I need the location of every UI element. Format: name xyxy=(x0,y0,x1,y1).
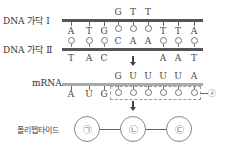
stem xyxy=(104,44,105,47)
mrna-base-above: U xyxy=(142,71,154,81)
strand1-base-below: T xyxy=(157,26,169,36)
strand1-base-below: T xyxy=(172,26,184,36)
strand2-label: DNA 가닥 Ⅱ xyxy=(3,43,52,56)
strand2-base-above: A xyxy=(142,36,154,46)
unknown-base-circle xyxy=(175,89,182,96)
strand1-base-above: T xyxy=(127,7,139,17)
stem xyxy=(71,44,72,47)
strand2-base-below: A xyxy=(172,53,184,63)
mrna-label: mRNA xyxy=(32,78,62,88)
strand1-base-above: T xyxy=(142,7,154,17)
unknown-base-circle xyxy=(115,25,122,32)
strand1-base-below: A xyxy=(188,26,200,36)
marker-line xyxy=(201,93,208,94)
mrna-base-below: G xyxy=(98,89,110,99)
strand1-label: DNA 가닥 Ⅰ xyxy=(3,14,50,27)
arrow-down-icon xyxy=(130,62,136,66)
mrna-base-below: U xyxy=(83,89,95,99)
mrna-base-above: U xyxy=(127,71,139,81)
strand2-base-above: C xyxy=(112,36,124,46)
strand2-base-below: A xyxy=(83,53,95,63)
mrna-base-above: U xyxy=(157,71,169,81)
stem xyxy=(89,44,90,47)
marker-a: ⓐ xyxy=(208,87,216,98)
strand2-base-below: A xyxy=(157,53,169,63)
polypeptide-label: 폴리펩타이드 xyxy=(17,124,59,135)
mrna-base-above: A xyxy=(188,71,200,81)
strand1-base-above: G xyxy=(112,7,124,17)
unknown-base-circle xyxy=(191,89,198,96)
unknown-base-circle xyxy=(145,89,152,96)
strand1-base-below: T xyxy=(83,26,95,36)
strand2-base-below: T xyxy=(65,53,77,63)
peptide-bond xyxy=(99,129,120,130)
strand1-base-below: A xyxy=(65,26,77,36)
amino-acid-3: ㉢ xyxy=(166,116,192,142)
unknown-base-circle xyxy=(160,89,167,96)
stem xyxy=(163,44,164,47)
mrna-base-above: U xyxy=(172,71,184,81)
stem xyxy=(178,44,179,47)
unknown-base-circle xyxy=(115,89,122,96)
dna-strand-2 xyxy=(62,48,203,51)
strand2-base-below: T xyxy=(188,53,200,63)
peptide-bond xyxy=(145,129,166,130)
region-a-box xyxy=(110,86,201,100)
unknown-base-circle xyxy=(160,37,167,44)
unknown-base-circle xyxy=(68,37,75,44)
arrow-down-icon xyxy=(130,107,136,111)
unknown-base-circle xyxy=(130,25,137,32)
strand2-base-above: A xyxy=(127,36,139,46)
mrna-base-above: G xyxy=(112,71,124,81)
amino-acid-2: ㉡ xyxy=(120,116,146,142)
unknown-base-circle xyxy=(86,37,93,44)
strand2-base-below: C xyxy=(98,53,110,63)
unknown-base-circle xyxy=(191,37,198,44)
unknown-base-circle xyxy=(130,89,137,96)
unknown-base-circle xyxy=(145,25,152,32)
mrna-base-below: A xyxy=(65,89,77,99)
unknown-base-circle xyxy=(101,37,108,44)
strand1-base-below: G xyxy=(98,26,110,36)
stem xyxy=(194,44,195,47)
amino-acid-1: ㉠ xyxy=(74,116,100,142)
unknown-base-circle xyxy=(175,37,182,44)
